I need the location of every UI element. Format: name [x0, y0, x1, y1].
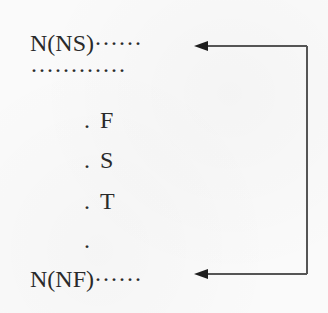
arrowhead-left-icon [194, 269, 208, 279]
loop-arrow [0, 0, 328, 313]
arrowhead-left-icon [194, 41, 208, 51]
